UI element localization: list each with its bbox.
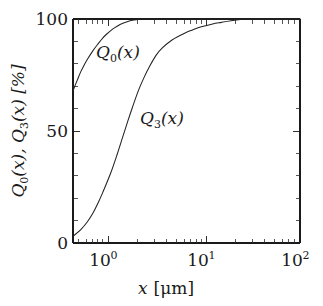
x-axis-title-var: x	[138, 278, 148, 298]
x-axis-title: x[μm]	[138, 278, 194, 298]
curve-label-q0-base: Q	[96, 42, 110, 62]
y-axis-title-q3: Q	[8, 129, 28, 143]
svg-text:Q0(x): Q0(x)	[96, 42, 140, 65]
curve-label-q3-base: Q	[140, 108, 154, 128]
y-axis-title-q0-arg: (x),	[8, 143, 28, 177]
x-tick-label-10: 10 1	[187, 249, 215, 270]
y-axis-title-q3-arg: (x) [%]	[8, 64, 28, 122]
y-tick-label-50: 50	[46, 121, 68, 141]
curve-label-q3-sub: 3	[154, 118, 161, 131]
figure-container: 0 50 100 10 0 10 1 10 2 x[μm] Q0(x), Q3(…	[0, 0, 323, 306]
x-tick-exponent-2: 2	[303, 249, 310, 262]
y-minor-ticks	[73, 41, 300, 220]
x-tick-label-100: 10 2	[281, 249, 309, 270]
x-tick-label-1: 10 0	[89, 249, 117, 270]
svg-text:Q0(x), Q3(x) [%]: Q0(x), Q3(x) [%]	[8, 64, 31, 198]
chart-plot: 0 50 100 10 0 10 1 10 2 x[μm] Q0(x), Q3(…	[0, 0, 323, 306]
curve-label-q0: Q0(x)	[96, 42, 140, 65]
y-axis-title: Q0(x), Q3(x) [%]	[8, 64, 31, 198]
x-axis-title-unit: [μm]	[154, 278, 194, 298]
svg-text:Q3(x): Q3(x)	[140, 108, 184, 131]
x-tick-exponent-1: 1	[209, 249, 216, 262]
svg-text:x[μm]: x[μm]	[138, 278, 194, 298]
x-tick-mantissa-0: 10	[89, 250, 111, 270]
curve-label-q3-arg: (x)	[161, 108, 184, 128]
x-tick-exponent-0: 0	[111, 249, 118, 262]
curve-label-q0-sub: 0	[110, 52, 117, 65]
x-tick-mantissa-1: 10	[187, 250, 209, 270]
y-axis-title-q0: Q	[8, 184, 28, 198]
y-tick-label-0: 0	[57, 233, 68, 253]
curve-label-q3: Q3(x)	[140, 108, 184, 131]
x-tick-mantissa-2: 10	[281, 250, 303, 270]
y-tick-label-100: 100	[36, 9, 68, 29]
curve-label-q0-arg: (x)	[117, 42, 140, 62]
y-axis-title-q3-sub: 3	[18, 122, 31, 129]
y-axis-title-q0-sub: 0	[18, 177, 31, 184]
